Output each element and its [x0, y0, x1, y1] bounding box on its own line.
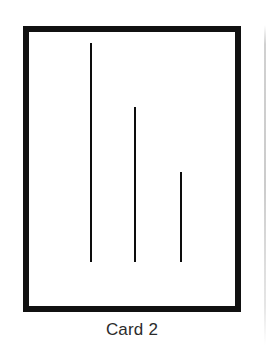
card-frame — [23, 26, 241, 312]
figure-root: Card 2 — [0, 0, 274, 363]
stimulus-line-1 — [90, 43, 92, 262]
page-edge-rule — [264, 25, 266, 345]
stimulus-line-2 — [134, 107, 136, 262]
card-inner-surface — [29, 32, 235, 306]
card-caption: Card 2 — [0, 319, 264, 340]
stimulus-line-3 — [180, 172, 182, 262]
